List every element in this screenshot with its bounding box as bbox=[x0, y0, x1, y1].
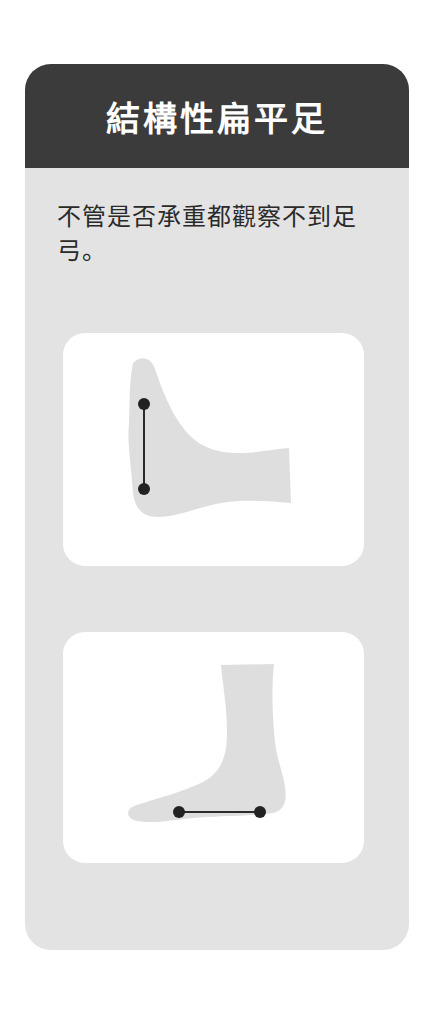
marker-dot-top bbox=[138, 398, 150, 410]
foot-side-illustration bbox=[63, 632, 364, 863]
card-header: 結構性扁平足 bbox=[25, 64, 409, 168]
foot-silhouette bbox=[128, 664, 286, 822]
card-description: 不管是否承重都觀察不到足弓。 bbox=[57, 200, 377, 268]
foot-silhouette bbox=[128, 358, 291, 517]
foot-front-illustration bbox=[63, 333, 364, 566]
card-title: 結構性扁平足 bbox=[106, 92, 328, 141]
flatfoot-card: 結構性扁平足 不管是否承重都觀察不到足弓。 bbox=[25, 64, 409, 950]
marker-dot-bottom bbox=[138, 483, 150, 495]
marker-dot-right bbox=[254, 806, 266, 818]
illustration-panel-side bbox=[63, 632, 364, 863]
illustration-panel-front bbox=[63, 333, 364, 566]
marker-dot-left bbox=[173, 806, 185, 818]
